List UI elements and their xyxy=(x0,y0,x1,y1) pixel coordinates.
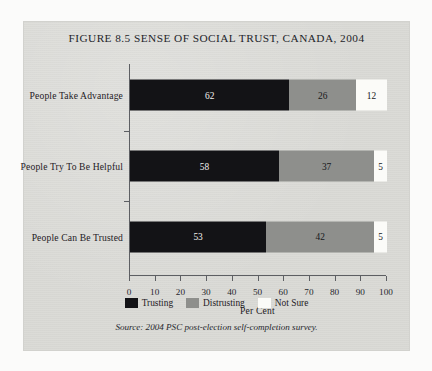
x-tick xyxy=(232,276,233,281)
legend-label: Distrusting xyxy=(203,298,245,308)
x-tick-label: 40 xyxy=(227,287,236,297)
bar-segment[interactable]: 42 xyxy=(266,221,374,252)
x-tick xyxy=(386,276,387,281)
legend-label: Trusting xyxy=(142,298,173,308)
legend-item[interactable]: Trusting xyxy=(125,298,173,308)
x-tick xyxy=(129,276,130,281)
x-tick xyxy=(155,276,156,281)
legend-item[interactable]: Distrusting xyxy=(186,298,245,308)
category-label: People Take Advantage xyxy=(30,90,123,101)
legend-swatch-icon xyxy=(258,298,271,308)
figure-title: FIGURE 8.5 SENSE OF SOCIAL TRUST, CANADA… xyxy=(24,32,409,44)
category-label: People Try To Be Helpful xyxy=(21,161,123,172)
x-tick-label: 10 xyxy=(150,287,159,297)
bar-segment[interactable]: 5 xyxy=(374,151,387,182)
category-label: People Can Be Trusted xyxy=(32,231,123,242)
x-tick xyxy=(258,276,259,281)
bar-segment[interactable]: 37 xyxy=(279,151,374,182)
bar-row[interactable]: 58375 xyxy=(130,151,387,182)
legend-label: Not Sure xyxy=(275,298,309,308)
x-tick xyxy=(360,276,361,281)
legend-item[interactable]: Not Sure xyxy=(258,298,309,308)
bar-segment[interactable]: 58 xyxy=(130,151,279,182)
figure-card: FIGURE 8.5 SENSE OF SOCIAL TRUST, CANADA… xyxy=(24,22,409,350)
x-tick-label: 70 xyxy=(304,287,313,297)
bar-segment[interactable]: 12 xyxy=(356,80,387,111)
x-tick-label: 90 xyxy=(356,287,365,297)
x-tick xyxy=(206,276,207,281)
legend-swatch-icon xyxy=(186,298,199,308)
x-tick xyxy=(283,276,284,281)
x-tick-label: 100 xyxy=(379,287,393,297)
bar-segment[interactable]: 62 xyxy=(130,80,289,111)
x-tick xyxy=(180,276,181,281)
y-tick xyxy=(124,201,129,202)
bar-segment[interactable]: 26 xyxy=(289,80,356,111)
x-tick-label: 50 xyxy=(253,287,262,297)
x-tick xyxy=(309,276,310,281)
x-tick-label: 80 xyxy=(330,287,339,297)
bar-row[interactable]: 53425 xyxy=(130,221,387,252)
legend-swatch-icon xyxy=(125,298,138,308)
x-tick-label: 20 xyxy=(176,287,185,297)
bar-segment[interactable]: 5 xyxy=(374,221,387,252)
y-tick xyxy=(124,131,129,132)
x-tick-label: 0 xyxy=(127,287,132,297)
x-tick-label: 30 xyxy=(202,287,211,297)
bar-segment[interactable]: 53 xyxy=(130,221,266,252)
x-tick-label: 60 xyxy=(279,287,288,297)
bar-row[interactable]: 622612 xyxy=(130,80,387,111)
chart-plot-area: 0102030405060708090100 People Take Advan… xyxy=(129,64,386,276)
x-tick xyxy=(335,276,336,281)
source-note: Source: 2004 PSC post-election self-comp… xyxy=(24,322,409,332)
figure-page: FIGURE 8.5 SENSE OF SOCIAL TRUST, CANADA… xyxy=(0,0,432,371)
chart-legend: TrustingDistrustingNot Sure xyxy=(24,298,409,308)
